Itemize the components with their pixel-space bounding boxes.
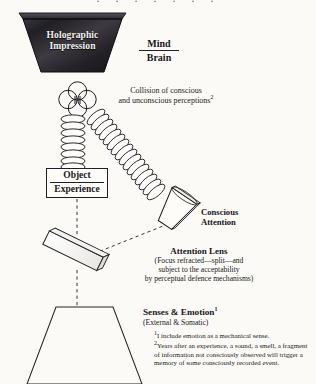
object-label: Object — [47, 169, 107, 182]
senses-emotion-footnote-marker: 1 — [214, 306, 217, 312]
attention-lens-prism — [43, 226, 109, 272]
holographic-line-1: Holographic — [19, 30, 126, 41]
mind-over-brain-label: Mind Brain — [131, 38, 187, 63]
experience-label: Experience — [47, 183, 107, 196]
conscious-attention-line-2: Attention — [201, 217, 271, 227]
senses-emotion-heading-text: Senses & Emotion — [143, 307, 214, 317]
conscious-channel-column — [61, 115, 85, 171]
conscious-attention-label: Conscious Attention — [201, 207, 271, 227]
mind-label: Mind — [131, 38, 187, 49]
object-experience-box: Object Experience — [46, 168, 108, 198]
brain-label: Brain — [131, 52, 187, 63]
footnote-1-text: I include emotion as a mechanical sense. — [157, 332, 269, 339]
senses-emotion-caption: Senses & Emotion1 (External & Somatic) — [143, 307, 263, 327]
footnote-1: 1I include emotion as a mechanical sense… — [154, 332, 314, 340]
page-top-bleed-text: · · · · · · · — [0, 0, 316, 4]
footnote-2: 2Years after an experience, a sound, a s… — [154, 342, 314, 367]
collision-caption: Collision of conscious and unconscious p… — [104, 86, 228, 105]
senses-emotion-sub: (External & Somatic) — [143, 318, 263, 327]
attention-lens-sub-3: by perceptual defence mechanisms) — [131, 275, 267, 284]
collision-footnote-marker: 2 — [210, 94, 213, 100]
attention-lens-caption: Attention Lens (Focus refracted—split—an… — [131, 246, 267, 283]
fraction-rule — [139, 50, 179, 51]
holographic-line-2: Impression — [19, 41, 126, 52]
holographic-impression-label: Holographic Impression — [19, 30, 126, 51]
senses-emotion-heading: Senses & Emotion1 — [143, 307, 263, 318]
conscious-attention-line-1: Conscious — [201, 207, 271, 217]
conscious-attention-funnel — [152, 184, 200, 234]
footnote-2-text: Years after an experience, a sound, a sm… — [154, 342, 307, 366]
diagram-canvas: · · · · · · · — [0, 0, 316, 384]
collision-line-2: and unconscious perceptions — [119, 96, 211, 105]
collision-line-1: Collision of conscious — [130, 86, 202, 95]
footnotes-block: 1I include emotion as a mechanical sense… — [154, 332, 314, 369]
collision-circles-cluster — [59, 82, 96, 117]
senses-emotion-shape — [27, 307, 142, 384]
